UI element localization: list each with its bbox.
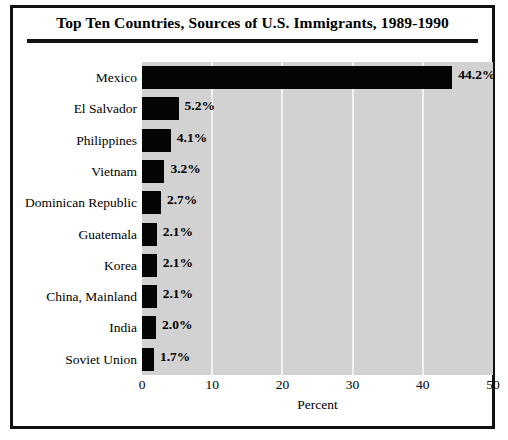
bar[interactable] <box>142 191 161 214</box>
bar-value-label: 2.1% <box>163 286 193 302</box>
bar-value-label: 2.0% <box>162 317 192 333</box>
bar-row: 5.2% <box>142 93 493 124</box>
bar-value-label: 4.1% <box>177 130 207 146</box>
bar[interactable] <box>142 97 179 120</box>
chart-figure-frame: Top Ten Countries, Sources of U.S. Immig… <box>10 5 495 429</box>
bar-value-label: 3.2% <box>170 161 200 177</box>
y-axis-tick-label: El Salvador <box>74 93 137 124</box>
plot-area: 44.2%5.2%4.1%3.2%2.7%2.1%2.1%2.1%2.0%1.7… <box>142 62 493 375</box>
bar[interactable] <box>142 316 156 339</box>
chart-title: Top Ten Countries, Sources of U.S. Immig… <box>13 14 492 32</box>
y-axis-tick-label: Mexico <box>96 62 137 93</box>
bar-row: 3.2% <box>142 156 493 187</box>
bar-value-label: 1.7% <box>160 349 190 365</box>
x-axis-title: Percent <box>142 397 493 413</box>
bar-row: 2.7% <box>142 187 493 218</box>
bar[interactable] <box>142 129 171 152</box>
x-axis-tick-label: 50 <box>486 377 500 393</box>
bar[interactable] <box>142 254 157 277</box>
y-axis-tick-label: Soviet Union <box>65 344 137 375</box>
bar-value-label: 5.2% <box>185 98 215 114</box>
y-axis-tick-label: Vietnam <box>91 156 137 187</box>
y-axis-tick-label: Philippines <box>76 125 137 156</box>
bar-row: 1.7% <box>142 344 493 375</box>
x-axis-tick-labels: 01020304050 <box>142 375 493 397</box>
bar[interactable] <box>142 348 154 371</box>
y-axis-tick-label: Guatemala <box>79 219 137 250</box>
y-axis-tick-label: China, Mainland <box>46 281 137 312</box>
x-axis-tick-label: 20 <box>276 377 290 393</box>
y-axis-tick-labels: MexicoEl SalvadorPhilippinesVietnamDomin… <box>33 62 137 375</box>
bar-value-label: 2.7% <box>167 192 197 208</box>
bar-row: 2.1% <box>142 281 493 312</box>
bar-value-label: 44.2% <box>458 67 495 83</box>
bar[interactable] <box>142 66 452 89</box>
bar-row: 2.0% <box>142 312 493 343</box>
x-axis-tick-label: 40 <box>416 377 430 393</box>
bar-value-label: 2.1% <box>163 255 193 271</box>
bar-row: 2.1% <box>142 219 493 250</box>
bar[interactable] <box>142 160 164 183</box>
bar-row: 4.1% <box>142 125 493 156</box>
y-axis-tick-label: Korea <box>104 250 137 281</box>
x-axis-tick-label: 30 <box>346 377 360 393</box>
y-axis-tick-label: Dominican Republic <box>25 187 137 218</box>
bar-row: 44.2% <box>142 62 493 93</box>
bar[interactable] <box>142 223 157 246</box>
bar-value-label: 2.1% <box>163 224 193 240</box>
x-axis-tick-label: 0 <box>139 377 146 393</box>
y-axis-tick-label: India <box>109 312 137 343</box>
bar-row: 2.1% <box>142 250 493 281</box>
title-divider-rule <box>27 39 478 43</box>
bar[interactable] <box>142 285 157 308</box>
x-axis-tick-label: 10 <box>205 377 219 393</box>
